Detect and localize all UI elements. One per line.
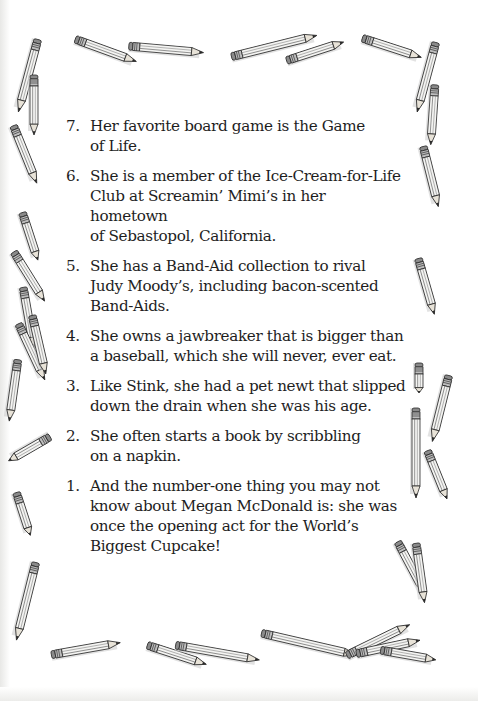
fact-text: She owns a jawbreaker that is bigger tha… (90, 326, 406, 366)
pencil-icon (412, 541, 432, 602)
pencil-icon (260, 625, 357, 659)
fact-text: Her favorite board game is the Game of L… (90, 116, 406, 156)
pencil-icon (414, 255, 442, 314)
pencil-icon (7, 433, 55, 467)
page-gutter-shadow (0, 0, 10, 701)
fact-item-6: 6. She is a member of the Ice-Cream-for-… (66, 166, 406, 246)
fact-text: She has a Band-Aid collection to rival J… (90, 256, 406, 316)
pencil-icon (30, 74, 42, 134)
fact-number: 3. (66, 376, 90, 416)
facts-list: 7. Her favorite board game is the Game o… (66, 116, 406, 566)
fact-text: She often starts a book by scribbling on… (90, 426, 406, 466)
fact-item-7: 7. Her favorite board game is the Game o… (66, 116, 406, 156)
pencil-icon (415, 362, 427, 392)
fact-number: 1. (66, 476, 90, 556)
pencil-icon (419, 144, 446, 207)
fact-number: 6. (66, 166, 90, 246)
fact-text: She is a member of the Ice-Cream-for-Lif… (90, 166, 406, 246)
pencil-icon (360, 30, 423, 61)
fact-item-3: 3. Like Stink, she had a pet newt that s… (66, 376, 406, 416)
fact-text: Like Stink, she had a pet newt that slip… (90, 376, 406, 416)
pencil-icon (427, 84, 443, 145)
fact-item-1: 1. And the number-one thing you may not … (66, 476, 406, 556)
page-bottom-shadow (0, 687, 478, 701)
fact-item-2: 2. She often starts a book by scribbling… (66, 426, 406, 466)
fact-item-5: 5. She has a Band-Aid collection to riva… (66, 256, 406, 316)
pencil-icon (429, 374, 457, 443)
pencil-icon (127, 38, 203, 56)
fact-number: 4. (66, 326, 90, 366)
pencil-icon (12, 489, 37, 536)
fact-text: And the number-one thing you may not kno… (90, 476, 406, 556)
pencil-icon (49, 635, 120, 659)
fact-number: 5. (66, 256, 90, 316)
fact-number: 2. (66, 426, 90, 466)
fact-number: 7. (66, 116, 90, 156)
pencil-icon (423, 447, 454, 500)
pencil-icon (13, 561, 44, 642)
fact-item-4: 4. She owns a jawbreaker that is bigger … (66, 326, 406, 366)
